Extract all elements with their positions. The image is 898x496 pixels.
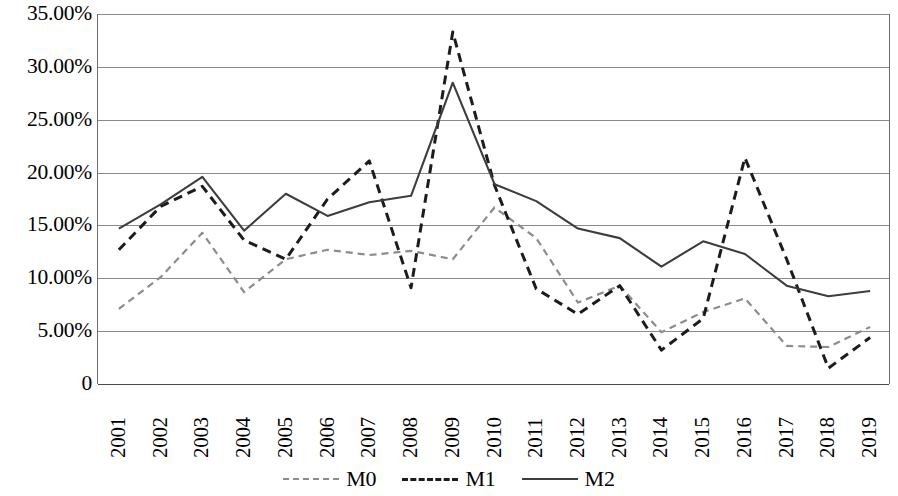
x-axis-tick-label-2016: 2016 [732, 386, 756, 458]
y-axis-tick-label: 5.00% [0, 320, 92, 342]
x-axis-tick-label-2004: 2004 [231, 386, 255, 458]
x-axis-tick-text: 2013 [608, 417, 630, 458]
x-axis-tick-label-2011: 2011 [523, 386, 547, 458]
y-axis-tick-label: 25.00% [0, 109, 92, 131]
x-axis-tick-text: 2009 [441, 417, 463, 458]
x-axis-tick-label-2013: 2013 [607, 386, 631, 458]
x-axis-tick-label-2018: 2018 [815, 386, 839, 458]
x-axis-tick-label-2001: 2001 [106, 386, 130, 458]
x-axis-tick-text: 2008 [399, 417, 421, 458]
x-axis-tick-label-2015: 2015 [690, 386, 714, 458]
legend-label: M1 [465, 468, 495, 490]
y-axis-tick-label: 0 [0, 373, 92, 395]
x-axis-tick-label-2010: 2010 [482, 386, 506, 458]
x-axis-tick-label-2008: 2008 [398, 386, 422, 458]
x-axis-tick-text: 2001 [107, 417, 129, 458]
legend: M0M1M2 [0, 462, 898, 496]
x-axis-tick-label-2009: 2009 [440, 386, 464, 458]
x-axis-tick-text: 2002 [149, 417, 171, 458]
x-axis-tick-text: 2006 [316, 417, 338, 458]
y-axis-tick-label: 15.00% [0, 214, 92, 236]
legend-label: M0 [346, 468, 376, 490]
x-axis-tick-text: 2005 [274, 417, 296, 458]
x-axis-tick-text: 2015 [691, 417, 713, 458]
x-axis-tick-text: 2014 [649, 417, 671, 458]
series-line-m0 [119, 207, 870, 347]
x-axis-tick-text: 2016 [733, 417, 755, 458]
x-axis-tick-text: 2012 [566, 417, 588, 458]
x-axis-tick-text: 2004 [232, 417, 254, 458]
y-axis-tick-label: 35.00% [0, 3, 92, 25]
x-axis-tick-text: 2011 [524, 418, 546, 458]
y-axis-tick-label: 10.00% [0, 267, 92, 289]
x-axis: 2001200220032004200520062007200820092010… [97, 386, 890, 460]
x-axis-tick-label-2012: 2012 [565, 386, 589, 458]
y-axis-tick-label: 30.00% [0, 56, 92, 78]
line-chart: 35.00%30.00%25.00%20.00%15.00%10.00%5.00… [0, 0, 898, 496]
legend-item-m2[interactable]: M2 [522, 468, 615, 490]
x-axis-tick-label-2006: 2006 [315, 386, 339, 458]
series-layer [98, 14, 891, 384]
legend-label: M2 [585, 468, 615, 490]
gridline-0 [98, 384, 889, 385]
y-axis-tick-label: 20.00% [0, 162, 92, 184]
dotted-line-swatch [283, 478, 339, 480]
x-axis-tick-text: 2019 [858, 417, 880, 458]
x-axis-tick-label-2003: 2003 [189, 386, 213, 458]
x-axis-tick-label-2014: 2014 [648, 386, 672, 458]
x-axis-tick-label-2019: 2019 [857, 386, 881, 458]
series-line-m1 [119, 32, 870, 368]
x-axis-tick-label-2002: 2002 [148, 386, 172, 458]
x-axis-tick-text: 2010 [483, 417, 505, 458]
x-axis-tick-label-2005: 2005 [273, 386, 297, 458]
legend-item-m1[interactable]: M1 [402, 468, 495, 490]
x-axis-tick-text: 2007 [357, 417, 379, 458]
x-axis-tick-label-2007: 2007 [356, 386, 380, 458]
x-axis-tick-text: 2018 [816, 417, 838, 458]
dashed-line-swatch [402, 478, 458, 481]
plot-area [97, 14, 890, 384]
solid-line-swatch [522, 478, 578, 480]
x-axis-tick-text: 2017 [775, 417, 797, 458]
legend-item-m0[interactable]: M0 [283, 468, 376, 490]
x-axis-tick-text: 2003 [190, 417, 212, 458]
x-axis-tick-label-2017: 2017 [774, 386, 798, 458]
y-axis: 35.00%30.00%25.00%20.00%15.00%10.00%5.00… [0, 0, 92, 496]
